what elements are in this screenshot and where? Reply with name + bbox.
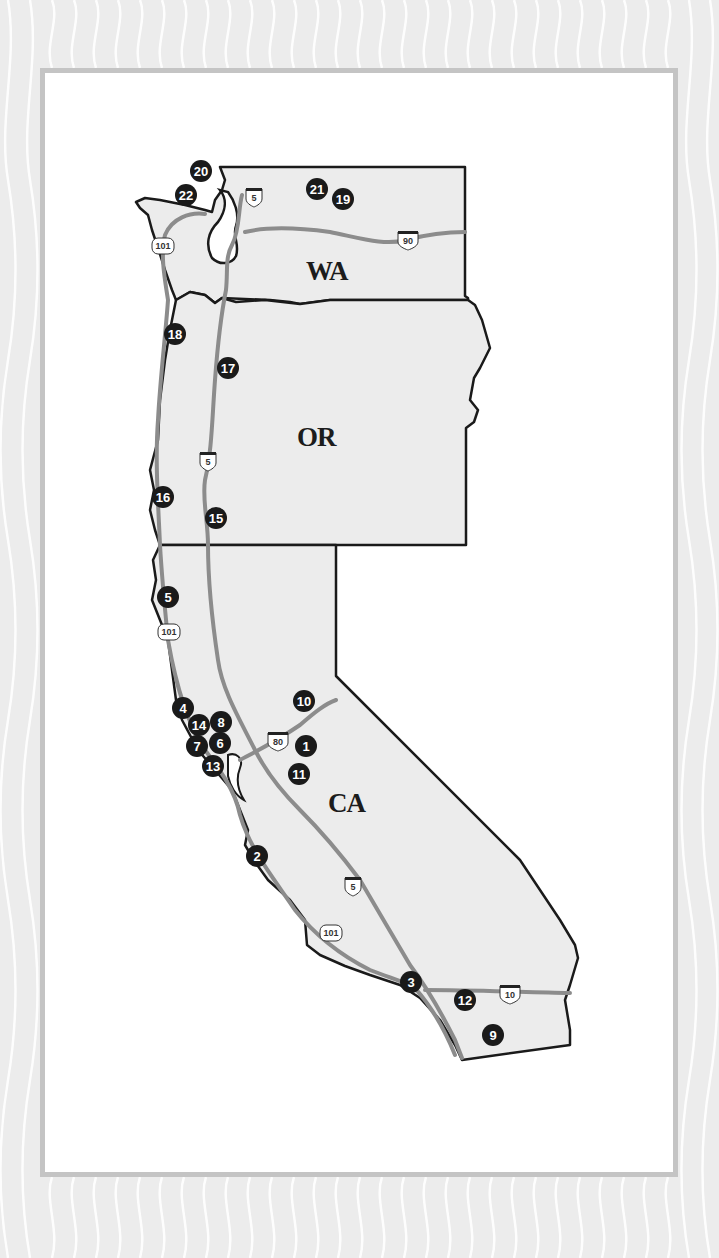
svg-text:18: 18 bbox=[168, 327, 182, 342]
svg-text:5: 5 bbox=[205, 457, 210, 467]
marker-10[interactable]: 10 bbox=[293, 690, 315, 712]
svg-text:101: 101 bbox=[161, 627, 176, 637]
marker-22[interactable]: 22 bbox=[175, 184, 197, 206]
svg-text:19: 19 bbox=[336, 192, 350, 207]
svg-text:6: 6 bbox=[216, 736, 223, 751]
marker-13[interactable]: 13 bbox=[202, 755, 224, 777]
marker-9[interactable]: 9 bbox=[482, 1024, 504, 1046]
svg-text:5: 5 bbox=[350, 882, 355, 892]
shield-i10: 10 bbox=[500, 985, 520, 1004]
svg-text:2: 2 bbox=[253, 849, 260, 864]
shield-i80: 80 bbox=[268, 732, 288, 751]
marker-5[interactable]: 5 bbox=[157, 586, 179, 608]
svg-text:11: 11 bbox=[292, 767, 306, 782]
marker-14[interactable]: 14 bbox=[188, 714, 210, 736]
shield-i5-ca: 5 bbox=[345, 877, 361, 896]
marker-12[interactable]: 12 bbox=[454, 989, 476, 1011]
svg-text:101: 101 bbox=[155, 241, 170, 251]
shield-i5-or: 5 bbox=[200, 452, 216, 471]
marker-2[interactable]: 2 bbox=[246, 845, 268, 867]
marker-3[interactable]: 3 bbox=[400, 971, 422, 993]
state-label-ca: CA bbox=[328, 788, 366, 818]
marker-1[interactable]: 1 bbox=[295, 735, 317, 757]
svg-text:7: 7 bbox=[193, 739, 200, 754]
state-or bbox=[150, 292, 490, 545]
marker-17[interactable]: 17 bbox=[217, 357, 239, 379]
svg-text:22: 22 bbox=[179, 188, 193, 203]
marker-8[interactable]: 8 bbox=[210, 711, 232, 733]
shield-i90: 90 bbox=[398, 231, 418, 250]
svg-text:21: 21 bbox=[310, 182, 324, 197]
svg-text:17: 17 bbox=[221, 361, 235, 376]
marker-11[interactable]: 11 bbox=[288, 763, 310, 785]
state-label-or: OR bbox=[297, 422, 337, 452]
svg-text:15: 15 bbox=[209, 511, 223, 526]
svg-text:90: 90 bbox=[403, 236, 413, 246]
svg-text:5: 5 bbox=[251, 193, 256, 203]
svg-text:80: 80 bbox=[273, 737, 283, 747]
svg-text:10: 10 bbox=[505, 990, 515, 1000]
marker-15[interactable]: 15 bbox=[205, 507, 227, 529]
marker-19[interactable]: 19 bbox=[332, 188, 354, 210]
west-coast-map: 5 90 101 5 101 80 5 101 10 WA OR CA bbox=[0, 0, 719, 1258]
svg-text:4: 4 bbox=[179, 701, 187, 716]
shield-us101-ca-south: 101 bbox=[320, 925, 342, 941]
svg-text:8: 8 bbox=[217, 715, 224, 730]
marker-7[interactable]: 7 bbox=[186, 735, 208, 757]
svg-text:16: 16 bbox=[156, 490, 170, 505]
svg-text:1: 1 bbox=[302, 739, 309, 754]
svg-text:20: 20 bbox=[194, 164, 208, 179]
state-label-wa: WA bbox=[306, 256, 349, 286]
shield-us101-wa: 101 bbox=[152, 238, 174, 254]
svg-text:12: 12 bbox=[458, 993, 472, 1008]
marker-4[interactable]: 4 bbox=[172, 697, 194, 719]
marker-6[interactable]: 6 bbox=[209, 732, 231, 754]
shield-us101-ca-north: 101 bbox=[158, 624, 180, 640]
svg-text:9: 9 bbox=[489, 1028, 496, 1043]
shield-i5-wa: 5 bbox=[246, 188, 262, 207]
svg-text:3: 3 bbox=[407, 975, 414, 990]
marker-16[interactable]: 16 bbox=[152, 486, 174, 508]
svg-text:5: 5 bbox=[164, 590, 171, 605]
marker-21[interactable]: 21 bbox=[306, 178, 328, 200]
marker-20[interactable]: 20 bbox=[190, 160, 212, 182]
svg-text:13: 13 bbox=[206, 759, 220, 774]
svg-text:10: 10 bbox=[297, 694, 311, 709]
state-ca bbox=[152, 545, 578, 1060]
svg-text:101: 101 bbox=[323, 928, 338, 938]
marker-18[interactable]: 18 bbox=[164, 323, 186, 345]
svg-text:14: 14 bbox=[192, 718, 207, 733]
